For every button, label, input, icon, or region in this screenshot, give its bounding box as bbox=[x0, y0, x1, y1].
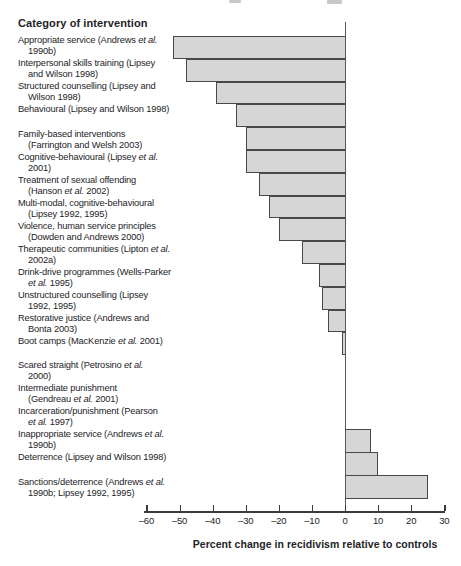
category-label-line: Therapeutic communities (Lipton et al. bbox=[18, 244, 170, 255]
category-label-line: Bonta 2003) bbox=[28, 324, 77, 335]
bar bbox=[246, 127, 347, 150]
axis-tick-label: –20 bbox=[271, 515, 286, 526]
axis-tick bbox=[246, 505, 247, 511]
category-label-line: 1990b) bbox=[28, 46, 56, 57]
category-label-line: Cognitive-behavioural (Lipsey et al. bbox=[18, 152, 158, 163]
axis-tick-label: 0 bbox=[342, 515, 347, 526]
bar bbox=[236, 104, 347, 127]
bar bbox=[269, 196, 347, 219]
bar bbox=[322, 287, 347, 310]
axis-tick bbox=[180, 505, 181, 511]
bar bbox=[173, 36, 347, 59]
category-label-line: Restorative justice (Andrews and bbox=[18, 313, 149, 324]
bar bbox=[345, 452, 378, 476]
axis-tick-label: 30 bbox=[439, 515, 449, 526]
axis-tick bbox=[146, 505, 147, 511]
category-label-line: Structured counselling (Lipsey and bbox=[18, 81, 156, 92]
category-label-line: 2000) bbox=[28, 371, 51, 382]
x-axis-title: Percent change in recidivism relative to… bbox=[185, 538, 445, 550]
category-label-line: et al. 1997) bbox=[28, 417, 73, 428]
category-label-line: Boot camps (MacKenzie et al. 2001) bbox=[18, 336, 163, 347]
category-label-line: Incarceration/punishment (Pearson bbox=[18, 406, 158, 417]
axis-tick bbox=[444, 505, 445, 511]
category-label-line: Sanctions/deterrence (Andrews et al. bbox=[18, 477, 165, 488]
axis-tick bbox=[279, 505, 280, 511]
category-label-line: and Wilson 1998) bbox=[28, 69, 98, 80]
category-label-line: Appropriate service (Andrews et al. bbox=[18, 35, 157, 46]
bar bbox=[345, 475, 428, 499]
bar bbox=[259, 173, 346, 196]
axis-tick bbox=[345, 505, 346, 511]
axis-tick bbox=[378, 505, 379, 511]
bar bbox=[186, 59, 346, 82]
bar-chart-figure: Category of intervention Appropriate ser… bbox=[0, 0, 461, 566]
category-label-line: Behavioural (Lipsey and Wilson 1998) bbox=[18, 104, 169, 115]
category-label-line: (Lipsey 1992, 1995) bbox=[28, 209, 107, 220]
column-header: Category of intervention bbox=[18, 17, 148, 29]
category-label-line: Interpersonal skills training (Lipsey bbox=[18, 58, 155, 69]
category-label-line: Scared straight (Petrosino et al. bbox=[18, 360, 143, 371]
zero-reference-line bbox=[345, 22, 346, 512]
category-label-line: Family-based interventions bbox=[18, 129, 125, 140]
axis-tick-label: 10 bbox=[373, 515, 383, 526]
category-label-line: 1992, 1995) bbox=[28, 301, 76, 312]
axis-tick bbox=[312, 505, 313, 511]
category-label-line: Deterrence (Lipsey and Wilson 1998) bbox=[18, 452, 166, 463]
category-label-line: (Hanson et al. 2002) bbox=[28, 186, 109, 197]
category-label-line: Treatment of sexual offending bbox=[18, 175, 136, 186]
axis-tick-label: 20 bbox=[406, 515, 416, 526]
category-label-line: 1990b; Lipsey 1992, 1995) bbox=[28, 488, 134, 499]
bar bbox=[246, 150, 347, 173]
category-label-line: Violence, human service principles bbox=[18, 221, 156, 232]
category-label-line: (Farrington and Welsh 2003) bbox=[28, 140, 142, 151]
category-label-line: 2001) bbox=[28, 163, 51, 174]
axis-tick-label: –60 bbox=[139, 515, 154, 526]
axis-tick-label: –30 bbox=[238, 515, 253, 526]
axis-tick bbox=[213, 505, 214, 511]
category-label-line: Inappropriate service (Andrews et al. bbox=[18, 429, 164, 440]
axis-tick bbox=[411, 505, 412, 511]
axis-tick-label: –40 bbox=[205, 515, 220, 526]
x-axis-line bbox=[144, 511, 445, 513]
category-label-line: (Dowden and Andrews 2000) bbox=[28, 232, 144, 243]
category-label-line: Drink-drive programmes (Wells-Parker bbox=[18, 267, 171, 278]
category-label-line: Wilson 1998) bbox=[28, 92, 80, 103]
axis-tick-label: –10 bbox=[304, 515, 319, 526]
bar bbox=[302, 241, 346, 264]
category-label-line: 2002a) bbox=[28, 255, 56, 266]
bar bbox=[279, 218, 347, 241]
category-label-line: Unstructured counselling (Lipsey bbox=[18, 290, 148, 301]
bar bbox=[345, 429, 371, 453]
category-label-line: et al. 1995) bbox=[28, 278, 73, 289]
category-label-line: 1990b) bbox=[28, 440, 56, 451]
bar bbox=[216, 82, 346, 105]
bar bbox=[319, 264, 347, 287]
category-label-line: Multi-modal, cognitive-behavioural bbox=[18, 198, 154, 209]
category-label-line: (Gendreau et al. 2001) bbox=[28, 394, 118, 405]
axis-tick-label: –50 bbox=[172, 515, 187, 526]
cropped-text-fragment bbox=[229, 0, 241, 3]
cropped-text-fragment bbox=[327, 0, 342, 4]
category-label-line: Intermediate punishment bbox=[18, 383, 117, 394]
